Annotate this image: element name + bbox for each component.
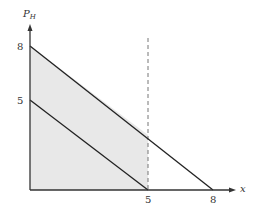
y-axis-label: PH — [22, 8, 37, 21]
x-axis-label: x — [240, 183, 246, 194]
diagram: PH x 8 5 5 8 — [0, 0, 258, 211]
y-tick-8: 8 — [17, 41, 23, 52]
x-tick-8: 8 — [210, 194, 216, 205]
shaded-region — [30, 46, 148, 190]
y-axis-arrow-icon — [28, 24, 33, 31]
x-tick-5: 5 — [145, 194, 151, 205]
y-tick-5: 5 — [17, 95, 23, 106]
x-axis-arrow-icon — [229, 188, 236, 193]
